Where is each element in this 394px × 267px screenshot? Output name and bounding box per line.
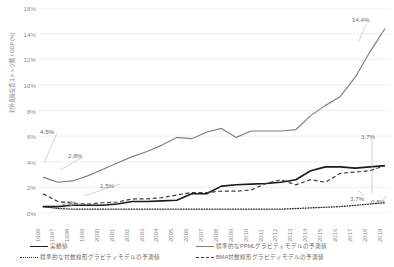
x-tick-2004: 2004: [153, 216, 159, 242]
data-series-layer: [38, 8, 390, 213]
x-tick-2012: 2012: [272, 216, 278, 242]
legend-item-label: 標準的なPPMLグラビティモデルの予測値: [216, 242, 327, 250]
y-tick-10: 10%: [10, 81, 36, 88]
legend-item-0[interactable]: 実績値: [30, 242, 68, 250]
annotation-a-15: 1.5%: [100, 182, 114, 189]
legend-item-2[interactable]: 標準的な対数線形グラビティモデルの予測値: [20, 253, 160, 261]
x-tick-2010: 2010: [243, 216, 249, 242]
legend-item-3[interactable]: BMA対数線形グラビティモデルの予測値: [196, 253, 324, 261]
annotation-a-05: 0.5%: [62, 199, 76, 206]
annotation-a-37t: 3.7%: [361, 133, 375, 140]
legend-swatch-icon: [196, 257, 214, 258]
x-tick-2016: 2016: [332, 216, 338, 242]
series-1: [43, 29, 385, 183]
x-tick-2019: 2019: [377, 216, 383, 242]
y-tick-4: 4%: [10, 158, 36, 165]
x-tick-2007: 2007: [198, 216, 204, 242]
x-tick-1997: 1997: [49, 216, 55, 242]
annotation-a-37b: 3.7%: [350, 195, 364, 202]
y-axis-tick-labels: 0%2%4%6%8%10%12%14%16%: [8, 0, 36, 220]
y-tick-6: 6%: [10, 133, 36, 140]
legend-item-label: 標準的な対数線形グラビティモデルの予測値: [40, 253, 160, 261]
x-tick-2017: 2017: [347, 216, 353, 242]
x-tick-2013: 2013: [287, 216, 293, 242]
legend-item-label: BMA対数線形グラビティモデルの予測値: [216, 253, 324, 261]
y-tick-16: 16%: [10, 5, 36, 12]
x-tick-2001: 2001: [109, 216, 115, 242]
legend-swatch-icon: [30, 246, 48, 247]
chart-legend: 実績値標準的なPPMLグラビティモデルの予測値標準的な対数線形グラビティモデルの…: [0, 240, 394, 267]
x-tick-2014: 2014: [302, 216, 308, 242]
x-tick-2015: 2015: [317, 216, 323, 242]
y-tick-2: 2%: [10, 184, 36, 191]
x-tick-2002: 2002: [124, 216, 130, 242]
legend-item-label: 実績値: [50, 242, 68, 250]
legend-item-1[interactable]: 標準的なPPMLグラビティモデルの予測値: [196, 242, 327, 250]
annotation-a-144: 14.4%: [352, 16, 370, 23]
x-tick-2011: 2011: [258, 216, 264, 242]
x-tick-1996: 1996: [35, 216, 41, 242]
y-tick-0: 0%: [10, 210, 36, 217]
x-tick-1999: 1999: [79, 216, 85, 242]
x-tick-2000: 2000: [94, 216, 100, 242]
x-tick-2003: 2003: [139, 216, 145, 242]
x-tick-2009: 2009: [228, 216, 234, 242]
x-tick-2018: 2018: [362, 216, 368, 242]
annotation-a-08: 0.8%: [371, 198, 385, 205]
x-axis-tick-labels: 1996199719981999200020012002200320042005…: [38, 214, 390, 242]
series-3: [43, 166, 385, 204]
annotation-a-28: 2.8%: [68, 152, 82, 159]
x-tick-2005: 2005: [168, 216, 174, 242]
plot-area: [38, 8, 390, 213]
foreign-direct-investment-stock-chart: 対外直接投資ストック額 / GDP (%) 0%2%4%6%8%10%12%14…: [0, 0, 394, 267]
x-tick-2008: 2008: [213, 216, 219, 242]
y-tick-12: 12%: [10, 56, 36, 63]
legend-swatch-icon: [20, 257, 38, 258]
legend-swatch-icon: [196, 246, 214, 247]
annotation-a-45: 4.5%: [40, 128, 54, 135]
y-tick-14: 14%: [10, 30, 36, 37]
series-0: [43, 166, 385, 207]
y-tick-8: 8%: [10, 107, 36, 114]
x-tick-1998: 1998: [64, 216, 70, 242]
x-tick-2006: 2006: [183, 216, 189, 242]
